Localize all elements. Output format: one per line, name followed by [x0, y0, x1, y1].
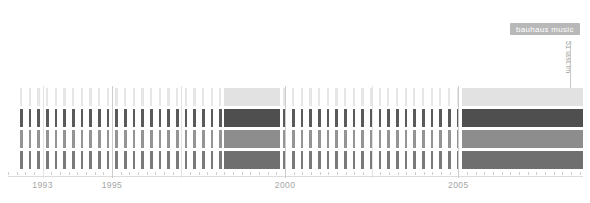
timeline-tick-bar	[344, 151, 347, 169]
year-guide-line	[285, 86, 286, 178]
timeline-tick-bar	[448, 130, 451, 148]
timeline-block[interactable]	[224, 130, 279, 148]
visualization-root: bauhaus music 51 last.fm 199319952000200…	[0, 0, 590, 203]
timeline-row[interactable]	[8, 88, 583, 106]
axis-tick	[17, 172, 18, 175]
timeline-tick-bar	[202, 130, 205, 148]
timeline-tick-bar	[309, 88, 311, 106]
timeline-block[interactable]	[462, 88, 583, 106]
timeline-tick-bar	[431, 109, 434, 127]
timeline-tick-bar	[335, 130, 338, 148]
timeline-tick-bar	[387, 130, 390, 148]
timeline-tick-bar	[98, 130, 101, 148]
timeline-tick-bar	[344, 109, 347, 127]
timeline-plot[interactable]	[8, 88, 583, 172]
timeline-tick-bar	[335, 109, 338, 127]
timeline-tick-bar	[202, 88, 204, 106]
timeline-tick-bar	[115, 130, 118, 148]
axis-tick	[207, 172, 208, 175]
timeline-tick-bar	[309, 109, 312, 127]
timeline-tick-bar	[124, 130, 127, 148]
timeline-tick-bar	[219, 109, 222, 127]
timeline-block[interactable]	[224, 151, 279, 169]
year-guide-line	[458, 86, 459, 178]
timeline-tick-bar	[29, 151, 32, 169]
axis-tick	[580, 172, 581, 175]
timeline-tick-bar	[20, 130, 23, 148]
timeline-row[interactable]	[8, 109, 583, 127]
axis-tick	[34, 172, 35, 175]
axis-tick	[147, 172, 148, 175]
axis-tick	[103, 172, 104, 175]
timeline-tick-bar	[327, 151, 330, 169]
timeline-block[interactable]	[224, 88, 279, 106]
timeline-tick-bar	[185, 151, 188, 169]
timeline-tick-bar	[327, 130, 330, 148]
timeline-tick-bar	[211, 130, 214, 148]
status-badge[interactable]: bauhaus music	[510, 23, 580, 35]
timeline-tick-bar	[431, 88, 433, 106]
timeline-tick-bar	[361, 88, 363, 106]
year-guide-line	[372, 86, 373, 178]
axis-tick	[354, 172, 355, 175]
timeline-tick-bar	[115, 109, 118, 127]
timeline-tick-bar	[413, 109, 416, 127]
timeline-tick-bar	[405, 109, 408, 127]
axis-tick	[233, 172, 234, 175]
timeline-tick-bar	[193, 88, 195, 106]
timeline-tick-bar	[413, 130, 416, 148]
timeline-tick-bar	[202, 109, 205, 127]
axis-tick	[337, 172, 338, 175]
timeline-row[interactable]	[8, 151, 583, 169]
axis-tick	[554, 172, 555, 175]
timeline-tick-bar	[327, 88, 329, 106]
timeline-tick-bar	[396, 151, 399, 169]
timeline-tick-bar	[379, 88, 381, 106]
axis-tick	[536, 172, 537, 175]
axis-tick	[294, 172, 295, 175]
timeline-block[interactable]	[462, 151, 583, 169]
timeline-tick-bar	[115, 151, 118, 169]
axis-tick	[415, 172, 416, 175]
timeline-tick-bar	[176, 130, 179, 148]
axis-tick	[86, 172, 87, 175]
timeline-tick-bar	[98, 88, 100, 106]
axis-tick	[268, 172, 269, 175]
timeline-tick-bar	[318, 109, 321, 127]
pointer-line	[570, 42, 571, 90]
timeline-tick-bar	[150, 151, 153, 169]
axis-tick	[242, 172, 243, 175]
timeline-tick-bar	[361, 109, 364, 127]
timeline-tick-bar	[167, 109, 170, 127]
timeline-tick-bar	[309, 130, 312, 148]
timeline-tick-bar	[72, 109, 75, 127]
timeline-tick-bar	[176, 109, 179, 127]
timeline-tick-bar	[55, 109, 58, 127]
timeline-block[interactable]	[462, 130, 583, 148]
timeline-tick-bar	[55, 151, 58, 169]
timeline-row[interactable]	[8, 130, 583, 148]
timeline-block[interactable]	[224, 109, 279, 127]
axis-tick	[380, 172, 381, 175]
timeline-tick-bar	[431, 130, 434, 148]
axis-label: 1993	[32, 180, 53, 190]
timeline-tick-bar	[89, 88, 91, 106]
axis-tick	[484, 172, 485, 175]
timeline-tick-bar	[29, 130, 32, 148]
timeline-tick-bar	[318, 130, 321, 148]
year-guide-line	[43, 86, 44, 178]
timeline-tick-bar	[301, 151, 304, 169]
timeline-tick-bar	[159, 88, 161, 106]
timeline-tick-bar	[20, 151, 23, 169]
timeline-block[interactable]	[462, 109, 583, 127]
axis-tick	[502, 172, 503, 175]
timeline-tick-bar	[301, 109, 304, 127]
timeline-tick-bar	[29, 88, 31, 106]
timeline-tick-bar	[150, 109, 153, 127]
axis-label: 2005	[448, 180, 469, 190]
timeline-tick-bar	[89, 109, 92, 127]
axis-tick	[77, 172, 78, 175]
timeline-tick-bar	[63, 109, 66, 127]
timeline-tick-bar	[46, 151, 49, 169]
timeline-tick-bar	[81, 88, 83, 106]
